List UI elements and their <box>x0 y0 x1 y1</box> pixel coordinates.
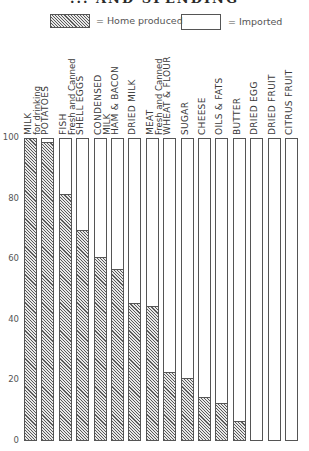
y-tick-label: 0 <box>0 435 19 445</box>
bar <box>233 138 246 441</box>
y-tick-label: 80 <box>0 193 19 203</box>
bar-home-produced-segment <box>182 378 193 440</box>
bar <box>76 138 89 441</box>
category-label: Shell Eggs <box>76 76 85 135</box>
bar <box>268 138 281 441</box>
category-label: Wheat & Flour <box>163 56 172 135</box>
bar <box>181 138 194 441</box>
legend-imported-swatch <box>181 14 221 30</box>
bar <box>41 138 54 441</box>
bar <box>128 138 141 441</box>
category-label: Dried Egg <box>250 81 259 135</box>
category-label: Butter <box>233 98 242 135</box>
legend-home-label: = Home produced <box>96 15 183 26</box>
bar-home-produced-segment <box>147 306 158 440</box>
category-label: Oils & Fats <box>215 77 224 135</box>
bar <box>285 138 298 441</box>
bar-home-produced-segment <box>42 142 53 440</box>
bar <box>59 138 72 441</box>
category-label: Dried Fruit <box>268 74 277 135</box>
legend-imported-label: = Imported <box>228 16 282 27</box>
bar <box>111 138 124 441</box>
category-label: Potatoes <box>41 86 50 135</box>
y-tick-label: 60 <box>0 253 19 263</box>
bar <box>215 138 228 441</box>
bar <box>24 138 37 441</box>
category-label: Sugar <box>181 102 190 135</box>
bar <box>94 138 107 441</box>
category-label: Ham & Bacon <box>111 66 120 135</box>
bar <box>198 138 211 441</box>
bar <box>146 138 159 441</box>
bar-home-produced-segment <box>164 372 175 440</box>
bar-home-produced-segment <box>129 303 140 440</box>
category-label: Citrus Fruit <box>285 69 294 135</box>
bar-home-produced-segment <box>77 230 88 440</box>
bar <box>163 138 176 441</box>
bar-home-produced-segment <box>199 397 210 440</box>
category-label: Cheese <box>198 97 207 135</box>
y-tick-label: 40 <box>0 314 19 324</box>
bar-home-produced-segment <box>25 138 36 440</box>
y-tick-label: 20 <box>0 374 19 384</box>
category-label: Dried Milk <box>128 79 137 135</box>
legend-home-swatch <box>50 14 90 28</box>
y-tick-label: 100 <box>0 132 19 142</box>
bar-home-produced-segment <box>216 403 227 440</box>
bar-home-produced-segment <box>234 421 245 440</box>
bar <box>250 138 263 441</box>
bar-home-produced-segment <box>112 269 123 440</box>
chart-title: ... AND SPENDING <box>0 0 309 6</box>
bar-home-produced-segment <box>60 194 71 440</box>
bar-home-produced-segment <box>95 257 106 440</box>
